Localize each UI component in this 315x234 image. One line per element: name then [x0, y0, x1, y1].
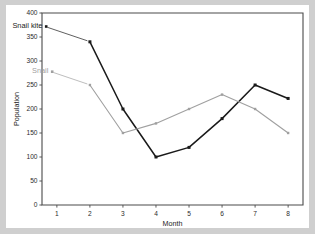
x-axis-tick-labels: 12345678	[55, 210, 290, 217]
axis-frame	[42, 13, 303, 205]
y-tick-label: 200	[26, 105, 37, 112]
y-axis-tick-labels: 050100150200250300350400	[26, 9, 37, 208]
series-snail	[89, 84, 290, 134]
series-label: Snail	[32, 66, 49, 75]
x-tick-label: 2	[88, 210, 92, 217]
y-tick-label: 400	[26, 9, 37, 16]
data-point	[122, 132, 124, 134]
plot-area: 050100150200250300350400 12345678 Snail …	[6, 5, 309, 228]
x-tick-label: 4	[154, 210, 158, 217]
label-leader-line	[47, 27, 87, 41]
x-tick-label: 3	[121, 210, 125, 217]
x-tick-label: 1	[55, 210, 59, 217]
y-tick-label: 50	[30, 177, 38, 184]
data-point	[188, 146, 191, 149]
data-series-layer	[88, 40, 289, 158]
series-label-layer: Snail kiteSnail	[12, 21, 87, 84]
y-tick-label: 150	[26, 129, 37, 136]
data-point	[188, 108, 190, 110]
y-tick-label: 100	[26, 153, 37, 160]
data-point	[221, 117, 224, 120]
data-point	[287, 132, 289, 134]
series-snail-kite	[88, 40, 289, 158]
y-axis-title: Population	[12, 92, 21, 126]
y-tick-label: 350	[26, 33, 37, 40]
y-tick-label: 0	[34, 201, 38, 208]
data-point	[254, 84, 257, 87]
chart-figure: 050100150200250300350400 12345678 Snail …	[6, 5, 309, 228]
data-point	[154, 156, 157, 159]
label-leader-line	[53, 73, 87, 85]
y-tick-label: 250	[26, 81, 37, 88]
data-point	[155, 122, 157, 124]
data-point	[221, 93, 223, 95]
y-tick-label: 300	[26, 57, 37, 64]
data-point	[88, 40, 91, 43]
label-marker	[51, 70, 54, 73]
x-tick-label: 6	[220, 210, 224, 217]
data-point	[121, 108, 124, 111]
label-marker	[45, 25, 48, 28]
x-tick-label: 7	[253, 210, 257, 217]
data-point	[254, 108, 256, 110]
data-point	[287, 97, 290, 100]
x-axis-title: Month	[163, 219, 183, 228]
x-tick-label: 5	[187, 210, 191, 217]
data-point	[89, 84, 91, 86]
x-tick-label: 8	[286, 210, 290, 217]
population-line-chart: 050100150200250300350400 12345678 Snail …	[6, 5, 309, 228]
series-label: Snail kite	[12, 21, 42, 30]
